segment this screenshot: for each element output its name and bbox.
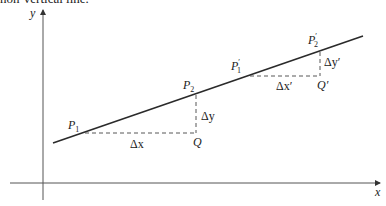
label-p1-prime: P′1 xyxy=(230,58,241,75)
x-axis-label: x xyxy=(374,185,381,199)
label-p1: P1 xyxy=(67,118,79,134)
label-dx-prime: Δx′ xyxy=(276,79,293,93)
label-q-prime: Q′ xyxy=(317,78,329,92)
label-dy: Δy xyxy=(201,109,215,123)
label-p2: P2 xyxy=(182,78,194,94)
label-p2-prime: P′2 xyxy=(307,32,318,49)
label-dx: Δx xyxy=(130,137,144,151)
y-axis-label: y xyxy=(29,6,36,20)
label-dy-prime: Δy′ xyxy=(324,55,341,69)
label-q: Q xyxy=(193,135,202,149)
slope-diagram: y x P1 P2 P′1 P′2 Q Q′ Δx Δy Δx′ Δy′ xyxy=(0,0,386,206)
